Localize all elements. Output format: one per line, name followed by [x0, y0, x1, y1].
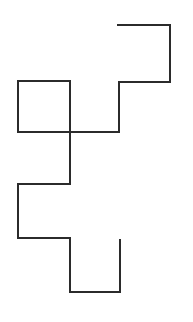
- figure-canvas: [0, 0, 193, 322]
- line-drawing-svg: [0, 0, 193, 322]
- canvas-background: [0, 0, 193, 322]
